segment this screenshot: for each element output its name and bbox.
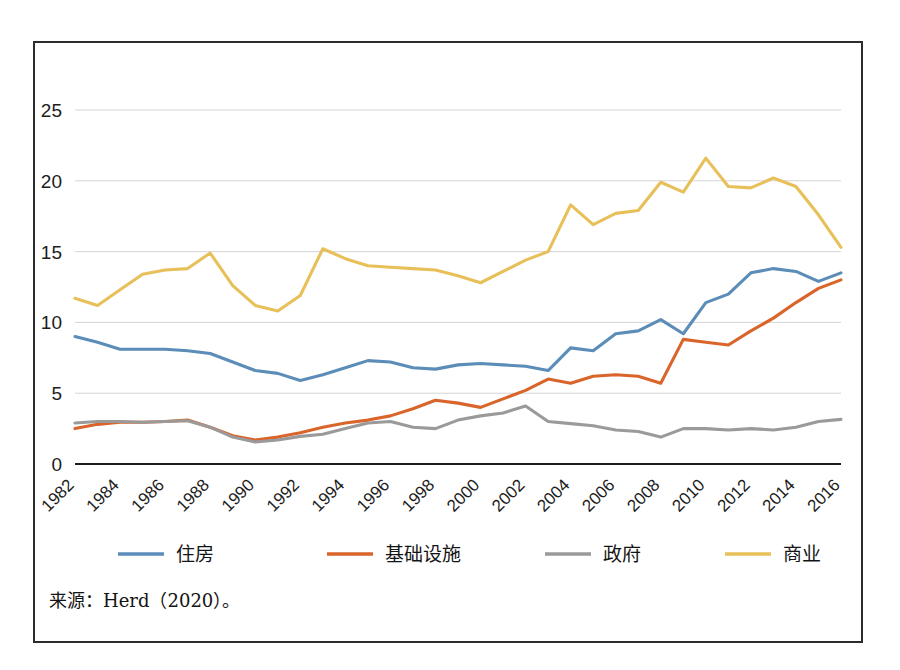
x-tick-label: 2010 — [668, 475, 708, 515]
x-tick-label: 1982 — [38, 475, 78, 515]
x-tick-label: 2008 — [623, 475, 663, 515]
x-tick-label: 1996 — [353, 475, 393, 515]
x-tick-label: 1984 — [83, 475, 123, 515]
y-tick-label: 20 — [41, 171, 62, 192]
y-axis-tick-labels: 0510152025 — [41, 100, 62, 475]
x-tick-label: 2006 — [578, 475, 618, 515]
chart-area: 0510152025 19821984198619881990199219941… — [35, 43, 861, 641]
x-tick-label: 2000 — [443, 475, 483, 515]
series-lines — [75, 158, 841, 442]
y-tick-label: 5 — [51, 383, 62, 404]
series-line-政府 — [75, 406, 841, 442]
series-line-住房 — [75, 269, 841, 381]
x-tick-label: 2016 — [804, 475, 844, 515]
x-tick-label: 1998 — [398, 475, 438, 515]
x-tick-label: 2004 — [533, 475, 573, 515]
x-tick-label: 1986 — [128, 475, 168, 515]
x-tick-label: 1992 — [263, 475, 303, 515]
x-tick-label: 1990 — [218, 475, 258, 515]
legend-label-基础设施[interactable]: 基础设施 — [385, 543, 461, 565]
legend-label-商业[interactable]: 商业 — [783, 543, 821, 565]
x-tick-label: 2014 — [759, 475, 799, 515]
x-tick-label: 2012 — [714, 475, 754, 515]
source-note: 来源：Herd（2020）。 — [49, 590, 240, 611]
x-tick-label: 1994 — [308, 475, 348, 515]
legend-label-住房[interactable]: 住房 — [176, 543, 214, 565]
line-chart: 0510152025 19821984198619881990199219941… — [35, 43, 861, 641]
legend-label-政府[interactable]: 政府 — [603, 543, 641, 565]
x-tick-label: 1988 — [173, 475, 213, 515]
series-line-基础设施 — [75, 280, 841, 440]
x-tick-label: 2002 — [488, 475, 528, 515]
y-tick-label: 0 — [51, 454, 62, 475]
chart-legend: 住房基础设施政府商业 — [118, 543, 821, 565]
figure-frame: 0510152025 19821984198619881990199219941… — [33, 41, 863, 643]
y-tick-label: 10 — [41, 312, 62, 333]
y-tick-label: 15 — [41, 242, 62, 263]
y-tick-label: 25 — [41, 100, 62, 121]
x-axis-tick-labels: 1982198419861988199019921994199619982000… — [38, 475, 844, 515]
